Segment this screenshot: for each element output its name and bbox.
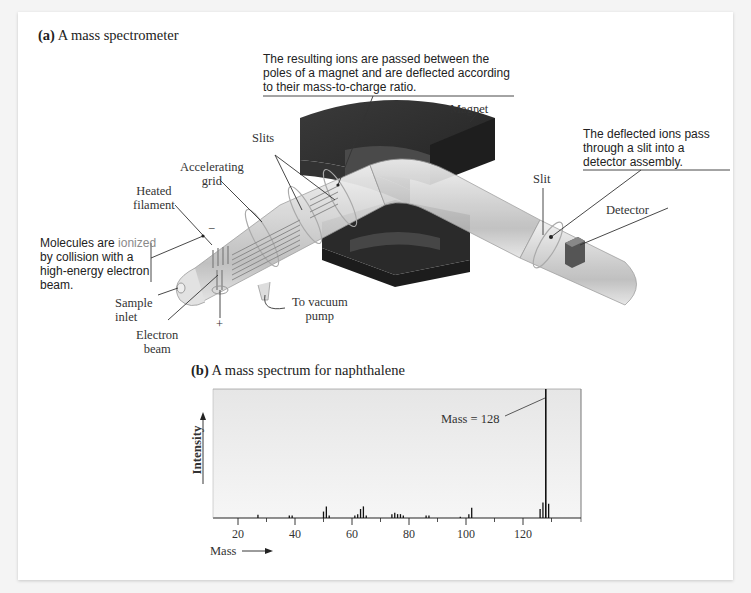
callout-ionization: Molecules are ionized by collision with … [40,236,156,292]
callout-line: through a slit into a [583,141,710,155]
label-line: Electron [136,328,178,342]
callout-detector-pass: The deflected ions pass through a slit i… [583,127,710,169]
part-b-heading: (b) A mass spectrum for naphthalene [191,362,405,379]
callout-line: high-energy electron [40,264,156,278]
callout-magnet-deflection: The resulting ions are passed between th… [263,52,510,94]
x-tick-label: 120 [514,527,532,542]
label-line: To vacuum [292,295,348,309]
label-line: Heated [133,184,175,198]
label-line: beam [136,342,178,356]
callout-line: beam. [40,278,156,292]
y-axis-label: Intensity [190,425,204,474]
part-b-label: (b) [191,362,209,378]
label-detector: Detector [606,203,649,217]
minus-sign: − [208,222,215,236]
callout-line: poles of a magnet and are deflected acco… [263,66,510,80]
peak-annotation: Mass = 128 [441,412,499,426]
callout-line: detector assembly. [583,155,710,169]
x-tick-label: 40 [289,527,301,542]
callout-text: Molecules are [40,236,118,250]
label-line: Accelerating [180,160,244,174]
label-line: filament [133,198,175,212]
label-line: grid [180,174,244,188]
callout-line: The resulting ions are passed between th… [263,52,510,66]
label-slit: Slit [533,172,550,186]
plus-sign: + [216,317,223,331]
x-tick-label: 80 [403,527,415,542]
x-tick-label: 100 [457,527,475,542]
ionized-highlight: ionized [118,236,156,250]
part-b-title: A mass spectrum for naphthalene [212,362,405,378]
callout-line: Molecules are ionized [40,236,156,250]
label-electron-beam: Electron beam [136,328,178,356]
label-sample-inlet: Sample inlet [115,296,153,324]
label-magnet: Magnet [450,102,488,116]
x-tick-label: 20 [232,527,244,542]
label-heated-filament: Heated filament [133,184,175,212]
label-line: inlet [115,310,153,324]
label-vacuum-pump: To vacuum pump [292,295,348,323]
callout-line: to their mass-to-charge ratio. [263,80,510,94]
label-slits: Slits [252,131,274,145]
callout-line: The deflected ions pass [583,127,710,141]
label-line: Sample [115,296,153,310]
label-line: pump [292,309,348,323]
label-accelerating-grid: Accelerating grid [180,160,244,188]
x-axis-label: Mass [210,544,236,558]
x-tick-label: 60 [346,527,358,542]
callout-line: by collision with a [40,250,156,264]
